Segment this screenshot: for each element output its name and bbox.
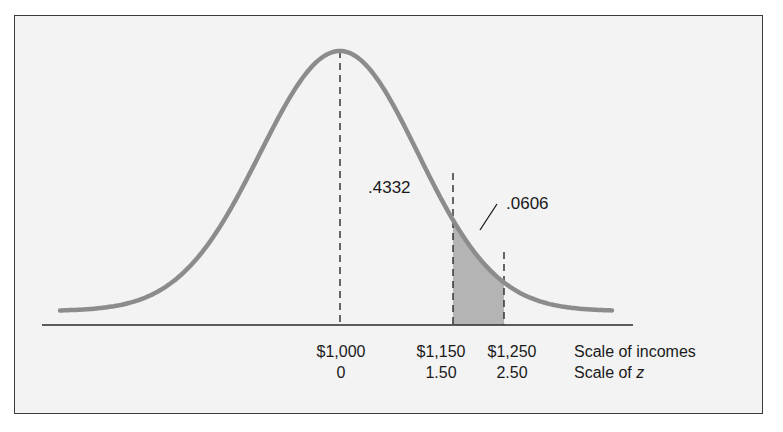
z-tick-250: 2.50 [496,364,527,381]
income-tick-1000: $1,000 [317,343,366,360]
income-scale-label: Scale of incomes [574,343,696,360]
z-tick-150: 1.50 [425,364,456,381]
area-label-4332: .4332 [368,178,411,197]
shaded-area-leader-line [480,204,497,230]
area-label-0606: .0606 [506,194,549,213]
z-scale-label: Scale of z [574,364,644,381]
z-tick-0: 0 [337,364,346,381]
normal-curve [60,51,612,310]
z-scale-label-prefix: Scale of [574,364,636,381]
z-variable: z [635,364,644,381]
income-tick-1150: $1,150 [417,343,466,360]
normal-distribution-chart: .4332 .0606 $1,000 $1,150 $1,250 Scale o… [0,0,783,432]
income-tick-1250: $1,250 [488,343,537,360]
